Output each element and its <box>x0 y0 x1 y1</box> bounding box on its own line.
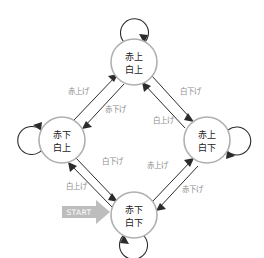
state-node-top[interactable]: 赤上 白上 <box>111 39 157 85</box>
state-node-right[interactable]: 赤上 白下 <box>184 117 230 163</box>
diagram-canvas: START 赤上 白上 赤下 白上 赤上 白下 赤下 白下 赤上げ 赤下げ 白下… <box>0 0 264 258</box>
edge-label-bottom-to-left: 白上げ <box>66 181 88 191</box>
start-label: START <box>66 208 91 217</box>
top-node-label-line2: 白上 <box>125 64 143 75</box>
start-arrow: START <box>62 200 110 224</box>
state-diagram: START 赤上 白上 赤下 白上 赤上 白下 赤下 白下 赤上げ 赤下げ 白下… <box>0 0 264 258</box>
bottom-node-circle[interactable] <box>111 192 157 238</box>
state-node-bottom[interactable]: 赤下 白下 <box>111 192 157 238</box>
left-node-label-line2: 白上 <box>53 142 71 153</box>
edge-label-right-to-top: 白上げ <box>153 115 175 125</box>
left-node-circle[interactable] <box>39 117 85 163</box>
right-node-label-line2: 白下 <box>198 142 216 153</box>
edge-label-left-to-bottom: 白下げ <box>102 156 124 166</box>
edge-label-bottom-to-right: 赤上げ <box>147 161 169 170</box>
bottom-node-label-line2: 白下 <box>125 217 143 228</box>
top-node-label-line1: 赤上 <box>125 52 143 62</box>
right-node-circle[interactable] <box>184 117 230 163</box>
edge-label-left-to-top: 赤上げ <box>68 87 90 96</box>
left-node-label-line1: 赤下 <box>53 130 71 140</box>
edge-label-top-to-left: 赤下げ <box>105 105 127 114</box>
top-node-circle[interactable] <box>111 39 157 85</box>
right-node-label-line1: 赤上 <box>198 130 216 140</box>
edge-label-right-to-bottom: 赤下げ <box>182 185 204 194</box>
edge-label-top-to-right: 白下げ <box>180 86 202 96</box>
bottom-node-label-line1: 赤下 <box>125 205 143 215</box>
state-node-left[interactable]: 赤下 白上 <box>39 117 85 163</box>
